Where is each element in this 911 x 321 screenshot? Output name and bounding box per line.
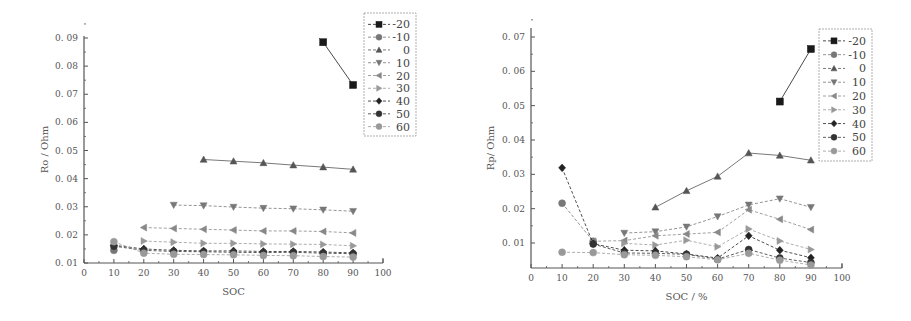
legend: -20-100102030405060: [819, 29, 872, 161]
y-axis-label: Rp/ Ohm: [485, 125, 496, 170]
data-point: [559, 249, 566, 256]
legend-label: 0: [403, 44, 410, 57]
legend-label: 0: [859, 62, 866, 75]
legend: -20-100102030405060: [364, 13, 416, 136]
data-point: [746, 225, 752, 232]
data-point: [200, 251, 207, 258]
x-tick-label: 60: [712, 273, 724, 283]
series-30: [622, 225, 815, 253]
x-tick-label: 50: [681, 273, 693, 283]
x-tick-label: 30: [619, 273, 631, 283]
data-point: [776, 257, 783, 264]
y-tick-label: 0. 01: [55, 258, 78, 268]
legend-marker: [831, 52, 837, 58]
x-tick-label: 70: [743, 273, 755, 283]
data-point: [140, 250, 147, 257]
data-point: [776, 216, 782, 223]
x-tick-label: 70: [288, 268, 300, 278]
data-point: [715, 243, 721, 250]
chart-rp-vs-soc: 01020304050607080901000. 010. 020. 030. …: [460, 0, 911, 321]
y-tick-label: 0. 08: [55, 61, 78, 71]
x-tick-label: 50: [228, 268, 240, 278]
series-line: [562, 203, 593, 241]
data-point: [652, 252, 659, 259]
chart-ro-vs-soc: 01020304050607080901000. 010. 020. 030. …: [0, 0, 460, 321]
data-point: [714, 229, 720, 236]
data-point: [776, 98, 783, 105]
data-point: [808, 246, 814, 253]
legend-label: -10: [848, 49, 866, 62]
x-tick-label: 20: [138, 268, 150, 278]
y-tick-label: 0. 03: [55, 202, 78, 212]
y-tick-label: 0. 06: [55, 117, 78, 127]
figure: 01020304050607080901000. 010. 020. 030. …: [0, 0, 911, 321]
data-point: [320, 241, 326, 248]
data-point: [350, 242, 356, 249]
series--20: [776, 46, 814, 106]
x-tick-label: 60: [258, 268, 270, 278]
data-point: [320, 228, 326, 235]
data-point: [559, 164, 566, 172]
y-tick-label: 0. 01: [502, 238, 525, 248]
data-point: [200, 156, 207, 162]
data-point: [350, 81, 357, 88]
series-line: [655, 153, 811, 207]
data-point: [621, 251, 628, 258]
data-point: [170, 225, 176, 232]
data-point: [714, 256, 721, 263]
legend-label: 40: [396, 95, 410, 108]
legend-label: 60: [396, 121, 410, 134]
series-20: [140, 224, 356, 236]
data-point: [559, 200, 566, 207]
legend-label: 50: [396, 108, 410, 121]
series-line: [780, 49, 811, 102]
x-tick-label: 40: [198, 268, 210, 278]
x-tick-label: 10: [556, 273, 568, 283]
y-tick-label: 0. 02: [55, 230, 78, 240]
x-tick-label: 80: [774, 273, 786, 283]
data-point: [170, 251, 177, 258]
x-axis-label: SOC / %: [666, 291, 708, 302]
legend-marker: [831, 134, 837, 140]
data-point: [807, 226, 813, 233]
data-point: [290, 227, 296, 234]
legend-marker: [831, 38, 837, 44]
data-point: [807, 261, 814, 268]
data-point: [140, 224, 146, 231]
series-0: [200, 156, 357, 172]
x-tick-label: 90: [347, 268, 359, 278]
y-tick-label: 0. 07: [502, 32, 525, 42]
data-point: [260, 252, 267, 259]
y-tick-label: 0. 03: [502, 169, 525, 179]
legend-label: 10: [852, 76, 866, 89]
x-tick-label: 100: [374, 268, 391, 278]
series-line: [204, 160, 354, 170]
data-point: [807, 46, 814, 53]
y-tick-label: 0. 07: [55, 89, 78, 99]
y-axis-label: Ro / Ohm: [39, 125, 50, 173]
legend-label: 30: [852, 104, 866, 117]
data-point: [350, 229, 356, 236]
data-point: [350, 208, 357, 214]
data-point: [320, 39, 327, 46]
legend-label: 30: [396, 82, 410, 95]
data-point: [261, 240, 267, 247]
y-tick-label: 0. 04: [55, 174, 78, 184]
legend-label: 20: [852, 90, 866, 103]
x-tick-label: 0: [81, 268, 87, 278]
data-point: [141, 238, 147, 245]
data-point: [230, 227, 236, 234]
y-tick-label: 0. 09: [55, 33, 78, 43]
data-point: [652, 204, 659, 210]
data-point: [110, 238, 117, 245]
legend-marker: [376, 111, 382, 117]
series-line: [323, 42, 353, 85]
data-point: [320, 253, 327, 260]
data-point: [260, 227, 266, 234]
legend-label: 10: [396, 57, 410, 70]
x-tick-label: 100: [833, 273, 850, 283]
data-point: [291, 241, 297, 248]
series-10: [170, 202, 356, 214]
data-point: [683, 231, 689, 238]
y-tick-label: 0. 04: [502, 135, 525, 145]
